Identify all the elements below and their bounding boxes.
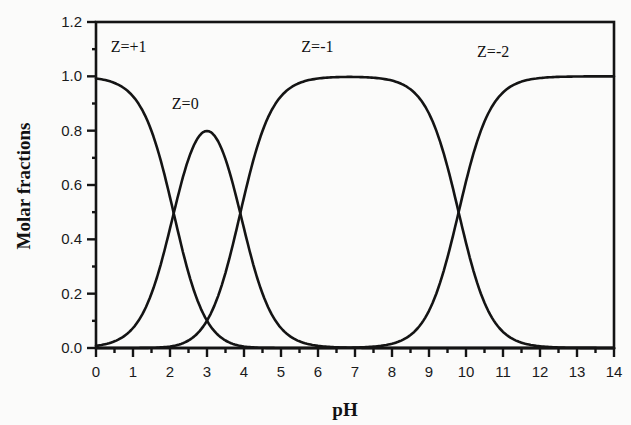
x-tick-label: 1 [129, 363, 137, 380]
axis-tick-labels: 012345678910111213140.00.20.40.60.81.01.… [61, 13, 622, 380]
plot-frame [96, 22, 614, 348]
label-z-plus-1: Z=+1 [111, 38, 147, 55]
y-axis-title: Molar fractions [13, 123, 34, 250]
y-tick-label: 1.0 [61, 67, 82, 84]
plot-curves [96, 76, 614, 348]
x-tick-label: 10 [458, 363, 475, 380]
y-tick-label: 0.2 [61, 285, 82, 302]
x-tick-label: 8 [388, 363, 396, 380]
x-tick-label: 13 [569, 363, 586, 380]
y-tick-label: 0.6 [61, 176, 82, 193]
label-z-minus-1: Z=-1 [301, 38, 333, 55]
label-z-0: Z=0 [172, 95, 199, 112]
x-tick-label: 4 [240, 363, 248, 380]
x-tick-label: 2 [166, 363, 174, 380]
x-tick-label: 3 [203, 363, 211, 380]
x-tick-label: 11 [495, 363, 511, 380]
x-axis-title: pH [332, 399, 358, 420]
speciation-chart: 012345678910111213140.00.20.40.60.81.01.… [0, 0, 631, 425]
x-tick-label: 14 [606, 363, 623, 380]
axis-ticks [87, 22, 614, 357]
x-tick-label: 7 [351, 363, 359, 380]
x-tick-label: 6 [314, 363, 322, 380]
x-tick-label: 9 [425, 363, 433, 380]
curve-z-0 [96, 131, 614, 348]
x-tick-label: 5 [277, 363, 285, 380]
y-tick-label: 0.4 [61, 230, 82, 247]
label-z-minus-2: Z=-2 [477, 43, 509, 60]
y-tick-label: 0.0 [61, 339, 82, 356]
y-tick-label: 0.8 [61, 122, 82, 139]
x-tick-label: 12 [532, 363, 549, 380]
x-tick-label: 0 [92, 363, 100, 380]
y-tick-label: 1.2 [61, 13, 82, 30]
